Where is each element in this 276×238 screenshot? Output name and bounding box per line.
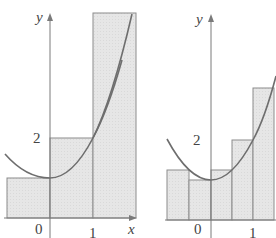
left-rect-1 [7, 178, 50, 218]
left-y-label: y [34, 9, 43, 25]
left-x-label: x [127, 221, 135, 237]
left-plot: y x 0 1 2 [4, 9, 137, 238]
right-y-label: y [194, 11, 203, 27]
left-y-tick-2: 2 [33, 130, 41, 146]
right-x-tick-1: 1 [249, 225, 257, 238]
right-rect-1 [167, 170, 189, 220]
right-origin-label: 0 [194, 221, 202, 237]
right-rectangles [167, 88, 274, 220]
right-y-tick-2: 2 [193, 132, 201, 148]
right-rect-4 [232, 140, 253, 220]
riemann-sum-figure: y x 0 1 2 y 0 1 2 [0, 0, 276, 238]
left-y-arrow-icon [47, 13, 53, 21]
left-rectangles [7, 13, 136, 218]
left-origin-label: 0 [35, 221, 43, 237]
right-rect-5 [253, 88, 274, 220]
right-rect-2 [189, 180, 211, 220]
right-plot: y 0 1 2 [165, 11, 276, 238]
left-rect-3 [93, 13, 136, 218]
left-x-tick-1: 1 [89, 225, 97, 238]
right-y-arrow-icon [208, 14, 214, 22]
